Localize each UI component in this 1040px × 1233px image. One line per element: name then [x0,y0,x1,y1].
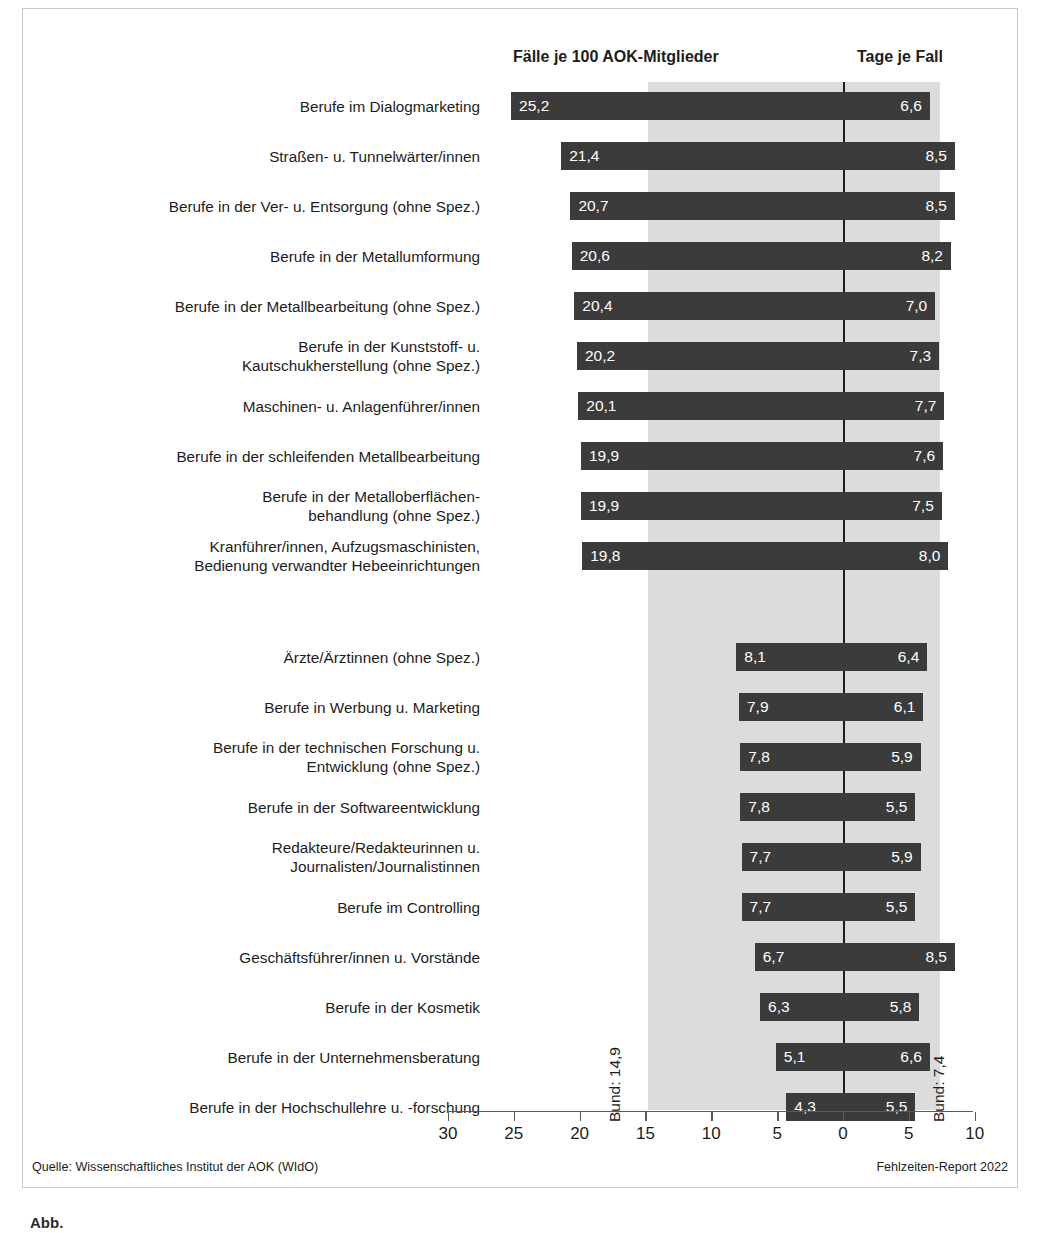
row-label: Geschäftsführer/innen u. Vorstände [32,948,480,967]
plot-area: Fälle je 100 AOK-Mitglieder Tage je Fall… [0,0,1040,1233]
row-label: Maschinen- u. Anlagenführer/innen [32,397,480,416]
table-row: Straßen- u. Tunnelwärter/innen21,48,5 [0,142,1040,170]
bar-value-faelle: 25,2 [519,97,549,115]
row-label: Berufe in der Softwareentwicklung [32,798,480,817]
table-row: Berufe in der Metalloberflächen- behandl… [0,492,1040,520]
bar-value-tage: 5,5 [886,898,908,916]
bar-tage: 6,6 [843,1043,930,1071]
bar-faelle: 19,9 [581,442,843,470]
table-row: Berufe in der Kunststoff- u. Kautschukhe… [0,342,1040,370]
bar-faelle: 6,3 [760,993,843,1021]
bar-value-tage: 5,8 [890,998,912,1016]
table-row: Kranführer/innen, Aufzugsmaschinisten, B… [0,542,1040,570]
bar-value-tage: 5,9 [891,848,913,866]
chart-page: Fälle je 100 AOK-Mitglieder Tage je Fall… [0,0,1040,1233]
x-axis [448,1111,973,1120]
bar-value-faelle: 19,8 [590,547,620,565]
bar-tage: 7,5 [843,492,942,520]
axis-tick [711,1112,712,1121]
bar-faelle: 5,1 [776,1043,843,1071]
bar-tage: 8,5 [843,142,955,170]
bar-value-faelle: 20,4 [582,297,612,315]
bar-value-faelle: 5,1 [784,1048,806,1066]
source-note: Quelle: Wissenschaftliches Institut der … [32,1160,318,1174]
report-note: Fehlzeiten-Report 2022 [876,1160,1008,1174]
axis-tick-label: 10 [702,1124,721,1144]
bund-label-right: Bund: 7,4 [930,1056,948,1122]
axis-tick-label: 0 [838,1124,847,1144]
bar-faelle: 7,8 [740,743,843,771]
axis-tick-label: 20 [570,1124,589,1144]
bar-tage: 8,5 [843,943,955,971]
row-label: Berufe in der Ver- u. Entsorgung (ohne S… [32,197,480,216]
bar-value-tage: 7,0 [906,297,928,315]
bar-faelle: 19,8 [582,542,843,570]
table-row: Berufe in der Metallumformung20,68,2 [0,242,1040,270]
bar-value-tage: 6,1 [894,698,916,716]
axis-tick [645,1112,646,1121]
caption-strip: Abb. [30,1214,360,1233]
row-label: Straßen- u. Tunnelwärter/innen [32,147,480,166]
bar-tage: 8,0 [843,542,948,570]
axis-tick-label: 5 [772,1124,781,1144]
bar-value-tage: 8,5 [925,948,947,966]
bar-value-tage: 7,7 [915,397,937,415]
row-label: Kranführer/innen, Aufzugsmaschinisten, B… [32,537,480,575]
bar-value-tage: 7,3 [910,347,932,365]
table-row: Berufe in der Unternehmensberatung5,16,6 [0,1043,1040,1071]
bar-tage: 7,3 [843,342,939,370]
bar-value-faelle: 19,9 [589,497,619,515]
row-label: Berufe in der Metallumformung [32,247,480,266]
bar-value-tage: 7,6 [914,447,936,465]
row-label: Berufe in Werbung u. Marketing [32,698,480,717]
bar-tage: 8,5 [843,192,955,220]
axis-tick-label: 25 [504,1124,523,1144]
row-label: Berufe im Controlling [32,898,480,917]
bar-value-tage: 8,5 [925,197,947,215]
bar-tage: 5,9 [843,843,921,871]
axis-tick-label: 10 [965,1124,984,1144]
bar-value-tage: 5,5 [886,798,908,816]
table-row: Berufe in Werbung u. Marketing7,96,1 [0,693,1040,721]
table-row: Redakteure/Redakteurinnen u. Journaliste… [0,843,1040,871]
row-label: Berufe im Dialogmarketing [32,97,480,116]
bar-tage: 6,1 [843,693,923,721]
table-row: Berufe in der technischen Forschung u. E… [0,743,1040,771]
bar-tage: 5,5 [843,893,915,921]
bar-value-tage: 8,0 [919,547,941,565]
bar-value-faelle: 20,2 [585,347,615,365]
column-header-faelle: Fälle je 100 AOK-Mitglieder [513,48,719,66]
axis-tick [448,1112,449,1121]
row-label: Berufe in der Kunststoff- u. Kautschukhe… [32,337,480,375]
table-row: Berufe in der Metallbearbeitung (ohne Sp… [0,292,1040,320]
bar-value-faelle: 7,7 [750,898,772,916]
bar-faelle: 8,1 [736,643,843,671]
axis-tick [580,1112,581,1121]
bar-value-faelle: 21,4 [569,147,599,165]
row-label: Berufe in der technischen Forschung u. E… [32,738,480,776]
bar-faelle: 7,8 [740,793,843,821]
axis-tick [777,1112,778,1121]
bar-faelle: 6,7 [755,943,843,971]
bar-tage: 5,5 [843,793,915,821]
bar-value-faelle: 20,7 [578,197,608,215]
bar-faelle: 20,6 [572,242,843,270]
row-label: Ärzte/Ärztinnen (ohne Spez.) [32,648,480,667]
bar-value-faelle: 19,9 [589,447,619,465]
axis-tick [843,1112,844,1121]
row-label: Redakteure/Redakteurinnen u. Journaliste… [32,838,480,876]
bar-tage: 7,0 [843,292,935,320]
column-header-tage: Tage je Fall [857,48,943,66]
bar-faelle: 7,7 [742,843,843,871]
bar-faelle: 25,2 [511,92,843,120]
bar-tage: 6,6 [843,92,930,120]
bar-tage: 5,8 [843,993,919,1021]
row-label: Berufe in der Metallbearbeitung (ohne Sp… [32,297,480,316]
table-row: Geschäftsführer/innen u. Vorstände6,78,5 [0,943,1040,971]
table-row: Berufe in der Kosmetik6,35,8 [0,993,1040,1021]
table-row: Berufe im Dialogmarketing25,26,6 [0,92,1040,120]
bar-value-faelle: 20,1 [586,397,616,415]
bar-faelle: 21,4 [561,142,843,170]
axis-tick [514,1112,515,1121]
row-label: Berufe in der Kosmetik [32,998,480,1017]
